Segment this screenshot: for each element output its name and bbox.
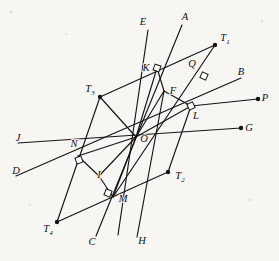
point-dot-T4 (55, 220, 59, 224)
point-label-Q: Q (188, 58, 196, 69)
point-label-H: H (137, 235, 147, 246)
right-angle-at-Q (200, 72, 208, 80)
point-label-J: J (16, 132, 22, 143)
point-label-E: E (139, 16, 147, 27)
point-dot-G (239, 126, 243, 130)
point-label-T4: T4 (43, 223, 53, 236)
line-F-to-L (164, 91, 191, 106)
point-label-subscript-T4: 4 (49, 229, 53, 237)
point-label-G: G (245, 122, 253, 133)
segments-group (16, 25, 258, 237)
right-angle-at-K (153, 64, 161, 72)
point-label-P: P (261, 92, 269, 103)
point-label-F: F (169, 85, 177, 96)
point-label-subscript-T2: 2 (181, 176, 185, 184)
point-label-T3: T3 (85, 83, 95, 96)
point-label-N: N (69, 138, 78, 149)
point-label-subscript-T1: 1 (226, 38, 230, 46)
geometry-canvas: AET1BKQPT3FLGJONDIT2MT4CH (0, 0, 279, 261)
point-dot-T1 (213, 43, 217, 47)
point-label-I: I (96, 169, 101, 180)
right-angle-at-M (104, 189, 112, 197)
point-label-T2: T2 (175, 170, 185, 183)
point-label-subscript-T3: 3 (90, 89, 95, 97)
point-dot-T3 (98, 95, 102, 99)
line-T2-to-L (168, 106, 191, 172)
line-P-ray (191, 99, 258, 106)
line-A-to-C (96, 25, 182, 236)
point-label-O: O (140, 133, 148, 144)
right-angle-at-L (187, 102, 195, 110)
right-angle-at-N (75, 156, 83, 164)
point-dot-T2 (166, 170, 170, 174)
point-dot-P (256, 97, 260, 101)
point-label-A: A (181, 11, 189, 22)
point-label-M: M (118, 193, 129, 204)
point-label-D: D (11, 165, 20, 176)
geometry-figure: AET1BKQPT3FLGJONDIT2MT4CH (0, 0, 279, 261)
right-angle-marks-group (75, 64, 208, 197)
point-label-K: K (141, 62, 150, 73)
point-label-B: B (238, 66, 245, 77)
point-label-L: L (192, 110, 199, 121)
point-label-T1: T1 (220, 32, 229, 45)
point-label-C: C (88, 236, 96, 247)
